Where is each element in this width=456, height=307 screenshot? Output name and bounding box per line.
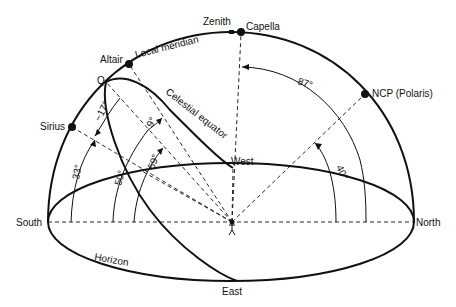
label-ncp: NCP (Polaris)	[372, 88, 433, 99]
arrow-17	[95, 129, 101, 136]
label-east: East	[222, 286, 242, 297]
capella-dot	[237, 28, 245, 36]
label-capella: Capella	[246, 21, 280, 32]
altair-dot	[125, 60, 133, 68]
arc-87	[242, 67, 366, 222]
zenith-line	[232, 34, 241, 222]
arc-40	[315, 143, 336, 222]
label-local-meridian: Local meridian	[134, 34, 200, 60]
celestial-sphere-diagram: Zenith Capella Local meridian Altair Q C…	[0, 0, 456, 307]
angle-33: 33°	[70, 164, 83, 181]
zenith-marker	[229, 30, 234, 34]
label-south: South	[16, 217, 42, 228]
arrow-87	[242, 64, 249, 70]
ncp-dot	[361, 90, 369, 98]
label-north: North	[416, 217, 440, 228]
sirius-line	[72, 127, 232, 222]
label-horizon: Horizon	[94, 251, 130, 268]
sirius-dot	[68, 123, 76, 131]
label-west: West	[231, 156, 254, 167]
label-zenith: Zenith	[203, 16, 231, 27]
angle-87: 87°	[296, 75, 314, 90]
label-sirius: Sirius	[40, 121, 65, 132]
west-line	[232, 168, 233, 222]
observer-icon	[229, 220, 235, 236]
arrow-40	[315, 143, 322, 150]
label-q: Q	[97, 75, 105, 86]
label-altair: Altair	[100, 54, 123, 65]
angle-40: 40°	[334, 163, 350, 181]
arc-33	[71, 140, 95, 222]
angle-50: 50°	[112, 169, 127, 186]
